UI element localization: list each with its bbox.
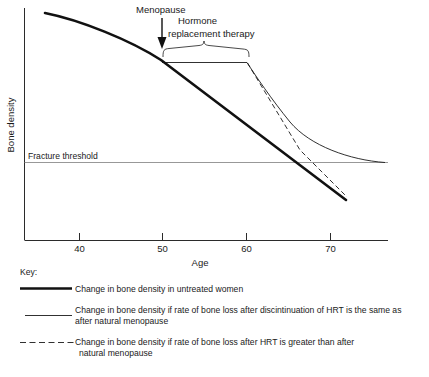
x-tick-label-70: 70: [325, 243, 336, 254]
bone-density-figure: 40 50 60 70 Age Bone density Fracture th…: [0, 0, 429, 377]
axes-group: [25, 8, 389, 241]
legend-item-untreated-line1: Change in bone density in untreated wome…: [75, 284, 243, 294]
series-group: [45, 13, 385, 200]
x-tick-label-40: 40: [74, 243, 85, 254]
legend-item-hrt-same-rate: Change in bone density if rate of bone l…: [25, 305, 401, 326]
x-ticks-group: 40 50 60 70: [74, 233, 336, 254]
legend: Key: Change in bone density in untreated…: [20, 267, 401, 358]
legend-key-label: Key:: [20, 267, 37, 277]
legend-item-hrt-same-rate-line2: after natural menopause: [75, 316, 168, 326]
x-tick-label-60: 60: [241, 243, 252, 254]
hrt-label-line1: Hormone: [178, 15, 217, 26]
menopause-annotation: Menopause: [136, 4, 186, 49]
legend-item-hrt-same-rate-line1: Change in bone density if rate of bone l…: [75, 305, 401, 315]
hrt-annotation: Hormone replacement therapy: [163, 15, 255, 57]
bone-density-chart: 40 50 60 70 Age Bone density Fracture th…: [0, 0, 429, 377]
legend-item-untreated: Change in bone density in untreated wome…: [20, 284, 243, 294]
fracture-threshold-label: Fracture threshold: [28, 151, 98, 161]
fracture-threshold-group: Fracture threshold: [25, 151, 389, 163]
hrt-curly-brace: [163, 41, 249, 57]
menopause-arrow-head: [158, 37, 167, 49]
x-tick-label-50: 50: [157, 243, 168, 254]
series-hrt-same-rate: [162, 63, 385, 163]
hrt-label-line2: replacement therapy: [168, 28, 255, 39]
x-axis-title: Age: [192, 257, 209, 268]
legend-item-hrt-greater-rate-line2: natural menopause: [79, 348, 153, 358]
menopause-label: Menopause: [136, 4, 186, 15]
legend-item-hrt-greater-rate: Change in bone density if rate of bone l…: [20, 337, 354, 358]
series-untreated: [45, 13, 346, 200]
legend-item-hrt-greater-rate-line1: Change in bone density if rate of bone l…: [75, 337, 354, 347]
y-axis-title: Bone density: [5, 97, 16, 152]
